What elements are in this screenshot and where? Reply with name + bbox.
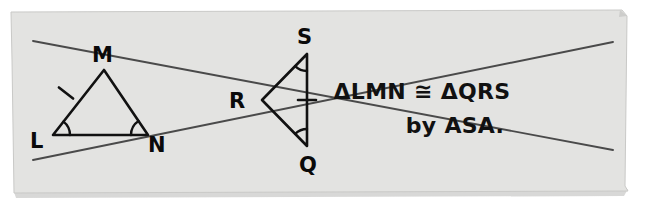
congruence-statement-line1: ΔLMN ≅ ΔQRS [334, 79, 511, 104]
vertex-label-m: M [92, 43, 113, 67]
vertex-label-s: S [297, 25, 312, 49]
diagram-canvas: L M N R S Q ΔLMN ≅ ΔQRS by ASA. [0, 0, 646, 209]
vertex-label-q: Q [299, 153, 317, 177]
paper-sheet [11, 10, 628, 198]
vertex-label-l: L [30, 129, 43, 153]
geometry-diagram-svg: L M N R S Q ΔLMN ≅ ΔQRS by ASA. [0, 0, 646, 209]
congruence-statement-line2: by ASA. [406, 113, 505, 138]
vertex-label-r: R [229, 89, 245, 113]
vertex-label-n: N [148, 133, 166, 157]
